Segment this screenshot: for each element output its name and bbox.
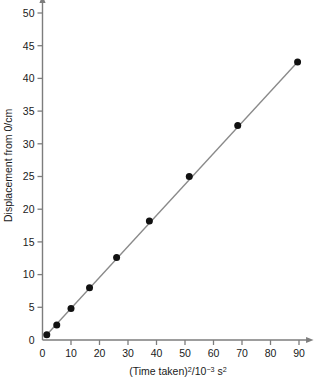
x-tick-label: 90 xyxy=(293,347,305,359)
data-point xyxy=(186,173,193,180)
y-tick-label: 15 xyxy=(23,236,35,248)
chart-background xyxy=(0,0,317,381)
data-point xyxy=(86,284,93,291)
data-point xyxy=(146,217,153,224)
data-point xyxy=(68,305,75,312)
x-tick-label: 60 xyxy=(208,347,220,359)
data-point xyxy=(113,254,120,261)
y-tick-label: 25 xyxy=(23,170,35,182)
y-tick-label: 20 xyxy=(23,203,35,215)
x-tick-label: 40 xyxy=(151,347,163,359)
y-tick-label: 10 xyxy=(23,268,35,280)
x-tick-label: 50 xyxy=(179,347,191,359)
y-tick-label: 35 xyxy=(23,105,35,117)
y-tick-label: 40 xyxy=(23,72,35,84)
x-tick-label: 10 xyxy=(65,347,77,359)
x-tick-label: 70 xyxy=(236,347,248,359)
data-point xyxy=(234,122,241,129)
y-tick-label: 0 xyxy=(29,334,35,346)
scatter-chart: 05101520253035404550 0102030405060708090… xyxy=(0,0,317,381)
data-point xyxy=(294,59,301,66)
x-tick-label: 80 xyxy=(265,347,277,359)
y-axis-title: Displacement from 0/cm xyxy=(2,109,14,222)
x-tick-label: 0 xyxy=(40,347,46,359)
x-tick-label: 30 xyxy=(122,347,134,359)
y-tick-label: 50 xyxy=(23,7,35,19)
data-point xyxy=(43,331,50,338)
y-tick-label: 5 xyxy=(29,301,35,313)
y-tick-label: 30 xyxy=(23,138,35,150)
data-point xyxy=(53,321,60,328)
y-tick-label: 45 xyxy=(23,40,35,52)
chart-container: 05101520253035404550 0102030405060708090… xyxy=(0,0,317,381)
x-tick-label: 20 xyxy=(94,347,106,359)
